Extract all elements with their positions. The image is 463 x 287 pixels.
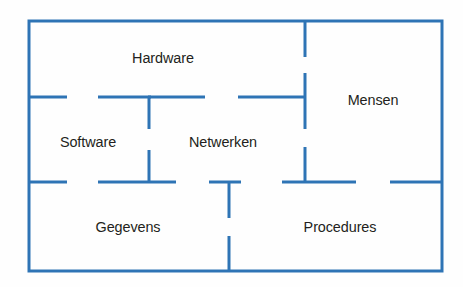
room-label-mensen-text: Mensen	[348, 91, 399, 109]
room-label-gegevens: Gegevens	[93, 218, 163, 236]
room-label-mensen: Mensen	[346, 91, 401, 109]
room-label-procedures-text: Procedures	[304, 218, 377, 236]
room-label-hardware-text: Hardware	[132, 49, 194, 67]
floor-plan-diagram: Hardware Mensen Software Netwerken Gegev…	[0, 0, 463, 287]
room-label-netwerken-text: Netwerken	[189, 133, 257, 151]
room-label-software-text: Software	[60, 133, 116, 151]
room-label-netwerken: Netwerken	[186, 133, 259, 151]
room-label-software: Software	[58, 133, 118, 151]
room-label-gegevens-text: Gegevens	[96, 218, 161, 236]
room-label-procedures: Procedures	[301, 218, 379, 236]
room-label-hardware: Hardware	[130, 49, 196, 67]
